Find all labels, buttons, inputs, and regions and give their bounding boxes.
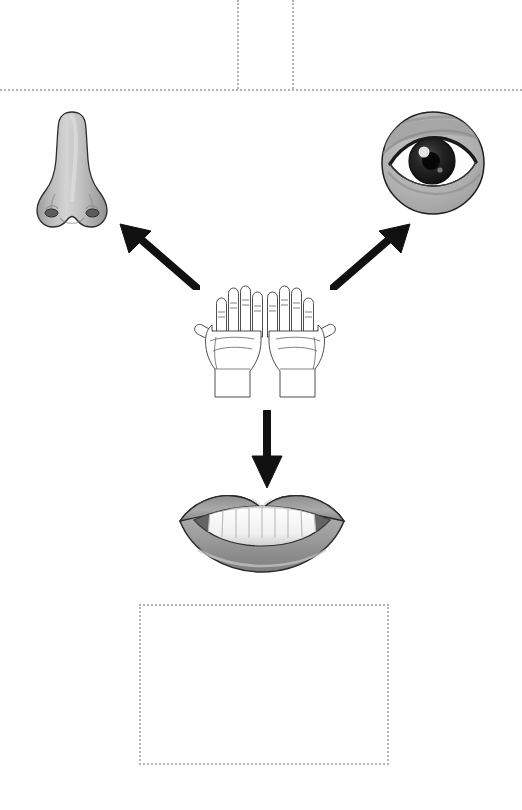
mouth-image <box>176 490 348 576</box>
arrow-down-to-mouth-icon <box>250 410 284 490</box>
diagram-canvas <box>0 0 522 810</box>
top-right-vertical-divider <box>292 0 294 89</box>
top-left-vertical-divider <box>237 0 239 89</box>
empty-answer-box[interactable] <box>139 604 389 765</box>
eye-image <box>380 110 486 216</box>
arrow-up-left-to-nose-icon <box>115 222 200 290</box>
arrow-up-right-to-eye-icon <box>330 222 415 290</box>
top-horizontal-divider <box>0 89 522 91</box>
hands-image <box>194 279 336 401</box>
nose-image <box>34 108 110 232</box>
